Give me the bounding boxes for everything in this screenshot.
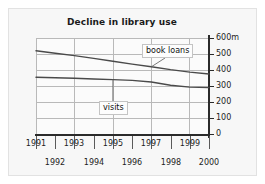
x-axis-label-1998: 1998 [158, 158, 184, 167]
y-axis-label-200: 200 [216, 98, 231, 106]
x-tick-1996 [132, 136, 133, 149]
x-axis-label-1992: 1992 [42, 158, 68, 167]
gridline-horizontal-600 [36, 38, 209, 39]
y-axis-label-0: 0 [216, 130, 221, 138]
gridline-vertical-1991 [36, 38, 37, 135]
y-tick-0 [210, 134, 214, 135]
y-tick-400 [210, 70, 214, 71]
gridline-horizontal-400 [36, 70, 209, 71]
y-tick-100 [210, 118, 214, 119]
y-tick-500 [210, 54, 214, 55]
x-axis-label-2000: 2000 [196, 158, 222, 167]
library-use-line-chart: Decline in library use 600m 500 400 [0, 0, 265, 184]
x-axis [35, 134, 210, 136]
x-tick-2000 [209, 136, 210, 149]
chart-title: Decline in library use [34, 17, 210, 27]
x-axis-label-1995: 1995 [100, 139, 126, 148]
x-tick-1998 [171, 136, 172, 149]
y-tick-300 [210, 86, 214, 87]
x-axis-label-1997: 1997 [138, 139, 164, 148]
x-tick-1992 [55, 136, 56, 149]
y-axis-label-100: 100 [216, 114, 231, 122]
x-axis-label-1993: 1993 [61, 139, 87, 148]
x-axis-label-1996: 1996 [119, 158, 145, 167]
callout-book-loans: book loans [142, 44, 193, 58]
x-axis-label-1991: 1991 [23, 139, 49, 148]
chart-screenshot: Decline in library use 600m 500 400 [0, 0, 265, 184]
y-axis-label-400: 400 [216, 66, 231, 74]
x-axis-label-1994: 1994 [81, 158, 107, 167]
y-tick-600 [210, 38, 214, 39]
x-axis-label-1999: 1999 [177, 139, 203, 148]
y-axis-label-600: 600m [216, 34, 239, 42]
y-tick-200 [210, 102, 214, 103]
gridline-vertical-1993 [74, 38, 75, 135]
callout-visits: visits [99, 101, 128, 115]
y-axis-label-500: 500 [216, 50, 231, 58]
x-tick-1994 [94, 136, 95, 149]
gridline-vertical-1995 [113, 38, 114, 135]
y-axis-label-300: 300 [216, 82, 231, 90]
gridline-horizontal-300 [36, 86, 209, 87]
gridline-horizontal-100 [36, 118, 209, 119]
